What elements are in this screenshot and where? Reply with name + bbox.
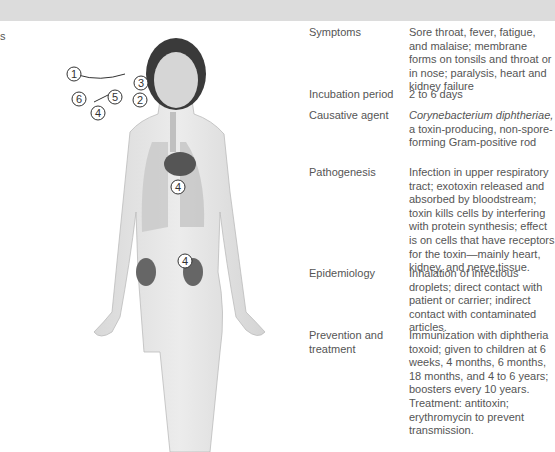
row-epidemiology: Epidemiology Inhalation of infectious dr… [309,267,555,335]
svg-text:6: 6 [76,93,82,105]
row-value: Sore throat, fever, fatigue, and malaise… [409,26,555,94]
row-key: Incubation period [309,88,409,102]
badge-5: 5 [108,90,122,104]
badge-4-neck: 4 [91,106,105,120]
badge-6: 6 [72,92,86,106]
svg-text:1: 1 [71,68,77,80]
svg-text:3: 3 [138,77,144,89]
row-causative-agent: Causative agent Corynebacterium diphther… [309,109,555,150]
badge-3: 3 [134,76,148,90]
cropped-label: s [0,30,6,42]
svg-text:2: 2 [137,94,143,106]
row-prevention: Prevention and treatment Immunization wi… [309,329,555,438]
svg-text:5: 5 [112,91,118,103]
badge-1: 1 [67,67,81,81]
badge-4-heart: 4 [171,180,185,194]
row-symptoms: Symptoms Sore throat, fever, fatigue, an… [309,26,555,94]
row-key: Symptoms [309,26,409,94]
svg-text:4: 4 [95,107,101,119]
badge-4-kidney: 4 [178,254,192,268]
svg-text:4: 4 [175,181,181,193]
row-value: Infection in upper respiratory tract; ex… [409,166,555,275]
row-value: 2 to 6 days [409,88,555,102]
body-illustration: 1 3 6 5 2 4 4 4 [60,22,300,452]
row-key: Prevention and treatment [309,329,409,438]
row-value: Corynebacterium diphtheriae, a toxin-pro… [409,109,555,150]
organism-name: Corynebacterium diphtheriae, [409,109,553,121]
row-key: Causative agent [309,109,409,150]
header-bar [0,0,555,21]
row-value: Immunization with diphtheria toxoid; giv… [409,329,555,438]
svg-text:4: 4 [182,255,188,267]
row-value: Inhalation of infectious droplets; direc… [409,267,555,335]
badge-2: 2 [133,93,147,107]
row-key: Epidemiology [309,267,409,335]
row-key: Pathogenesis [309,166,409,275]
row-incubation: Incubation period 2 to 6 days [309,88,555,102]
row-pathogenesis: Pathogenesis Infection in upper respirat… [309,166,555,275]
